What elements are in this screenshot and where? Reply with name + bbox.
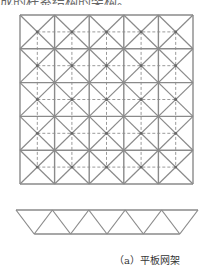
figure-caption: （a）平板网架 <box>114 252 180 267</box>
truss-elevation-view <box>0 0 213 269</box>
